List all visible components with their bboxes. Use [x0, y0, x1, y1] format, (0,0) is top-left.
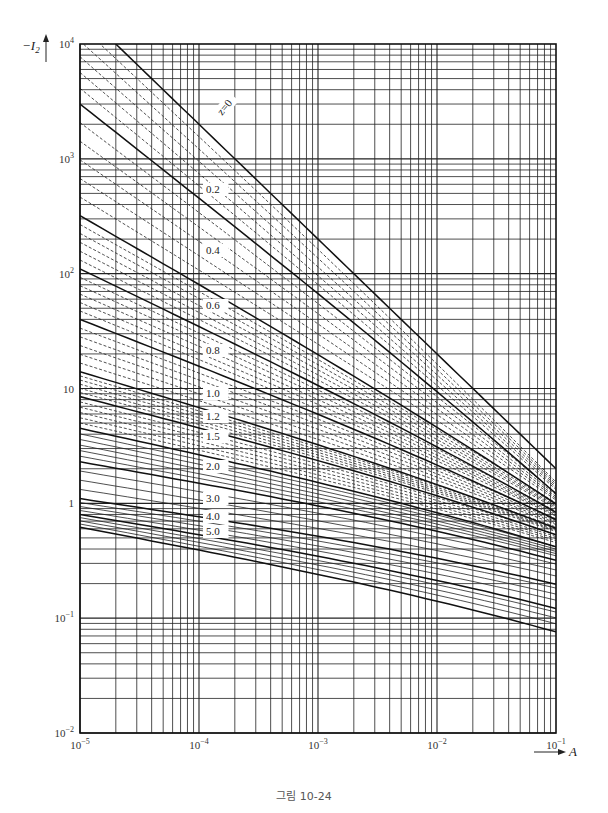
y-tick-label: 10−2 — [54, 725, 74, 739]
curve-label: 2.0 — [206, 460, 220, 472]
y-axis-ticks: 10410310210110−110−2 — [54, 36, 74, 739]
curve-label: 0.4 — [206, 244, 220, 256]
x-tick-label: 10−2 — [427, 737, 447, 751]
y-tick-label: 103 — [59, 151, 74, 165]
curve-label: 3.0 — [206, 492, 220, 504]
curve-label: 5.0 — [206, 525, 220, 537]
curve-label: 0.8 — [206, 344, 220, 356]
x-tick-label: 10−5 — [70, 737, 90, 751]
y-tick-label: 10−1 — [54, 610, 74, 624]
curve-z-0 — [116, 44, 556, 469]
x-axis-ticks: 10−510−410−310−210−1 — [70, 737, 566, 751]
grid-lines — [80, 44, 556, 733]
figure-caption: 그림 10-24 — [0, 787, 608, 803]
chart: z=00.20.40.60.81.01.21.52.03.04.05.0 104… — [0, 0, 608, 813]
y-tick-label: 1 — [69, 497, 75, 509]
curve-label: 1.2 — [206, 410, 220, 422]
curve-label: 1.5 — [206, 430, 220, 442]
curve-label: 0.6 — [206, 299, 220, 311]
y-axis-title: −I2 — [22, 38, 40, 55]
curve-label: 4.0 — [206, 510, 220, 522]
y-tick-label: 104 — [59, 36, 74, 50]
curve-label: 1.0 — [206, 387, 220, 399]
y-tick-label: 102 — [59, 266, 74, 280]
x-tick-label: 10−1 — [546, 737, 566, 751]
arrow-right-icon — [558, 749, 566, 755]
curve-label: 0.2 — [206, 183, 220, 195]
arrow-up-icon — [43, 34, 49, 42]
y-tick-label: 10 — [63, 383, 75, 395]
x-axis-title: A — [568, 744, 577, 759]
x-tick-label: 10−3 — [308, 737, 328, 751]
x-tick-label: 10−4 — [189, 737, 209, 751]
y-axis-label: −I2 — [22, 34, 49, 62]
